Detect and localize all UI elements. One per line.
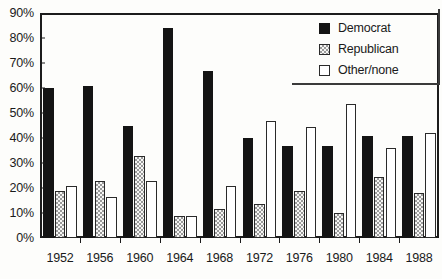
bar-rep-1952 xyxy=(55,191,66,239)
y-axis-tick-label: 30% xyxy=(10,156,34,170)
bar-group xyxy=(43,13,77,238)
x-axis-tick-label: 1972 xyxy=(246,251,273,265)
bar-rep-1984 xyxy=(374,177,385,238)
y-axis-tick-label: 70% xyxy=(10,56,34,70)
bar-oth-1976 xyxy=(306,127,317,238)
y-axis-tick-mark xyxy=(40,138,45,139)
bar-dem-1960 xyxy=(123,126,134,239)
legend-swatch-icon xyxy=(319,23,330,34)
bar-rep-1956 xyxy=(95,181,106,239)
y-axis-tick-mark xyxy=(40,188,45,189)
bar-dem-1968 xyxy=(203,71,214,239)
legend-item-rep[interactable]: Republican xyxy=(319,42,399,56)
y-axis-tick-label: 80% xyxy=(10,31,34,45)
y-axis-tick-label: 0% xyxy=(16,231,34,245)
bar-dem-1984 xyxy=(362,136,373,239)
bar-group xyxy=(243,13,277,238)
x-axis: 1952195619601964196819721976198019841988 xyxy=(40,243,439,273)
legend-item-dem[interactable]: Democrat xyxy=(319,21,391,35)
x-axis-tick-label: 1952 xyxy=(46,251,73,265)
legend-item-label: Democrat xyxy=(338,21,391,35)
x-axis-tick-label: 1968 xyxy=(206,251,233,265)
bar-oth-1972 xyxy=(266,121,277,239)
y-axis-tick-mark xyxy=(40,113,45,114)
x-axis-tick-mark xyxy=(200,238,201,243)
y-axis-tick-mark xyxy=(40,88,45,89)
y-axis-tick-mark xyxy=(40,63,45,64)
bar-group xyxy=(123,13,157,238)
bar-dem-1988 xyxy=(402,136,413,239)
bar-rep-1988 xyxy=(414,193,425,238)
x-axis-tick-mark xyxy=(240,238,241,243)
bar-rep-1972 xyxy=(254,204,265,238)
x-axis-tick-label: 1960 xyxy=(126,251,153,265)
y-axis-tick-label: 20% xyxy=(10,181,34,195)
x-axis-tick-mark xyxy=(319,238,320,243)
y-axis: 0%10%20%30%40%50%60%70%80%90% xyxy=(0,0,40,279)
bar-group xyxy=(83,13,117,238)
chart-legend: DemocratRepublicanOther/none xyxy=(292,9,440,85)
x-axis-tick-label: 1988 xyxy=(406,251,433,265)
legend-item-label: Other/none xyxy=(338,63,399,77)
bar-chart-figure: 0%10%20%30%40%50%60%70%80%90% 1952195619… xyxy=(0,0,442,279)
bar-oth-1980 xyxy=(346,104,357,238)
x-axis-tick-mark xyxy=(80,238,81,243)
bar-oth-1956 xyxy=(106,197,117,238)
y-axis-tick-label: 60% xyxy=(10,81,34,95)
x-axis-tick-mark xyxy=(359,238,360,243)
bar-dem-1964 xyxy=(163,28,174,238)
bar-rep-1960 xyxy=(134,156,145,239)
bar-dem-1956 xyxy=(83,86,94,239)
x-axis-tick-label: 1976 xyxy=(286,251,313,265)
x-axis-tick-mark xyxy=(279,238,280,243)
bar-rep-1968 xyxy=(214,209,225,238)
x-axis-tick-label: 1980 xyxy=(326,251,353,265)
bar-rep-1980 xyxy=(334,213,345,238)
bar-dem-1980 xyxy=(322,146,333,239)
y-axis-tick-label: 90% xyxy=(10,6,34,20)
bar-oth-1988 xyxy=(425,133,436,238)
bar-dem-1972 xyxy=(243,138,254,238)
y-axis-tick-mark xyxy=(40,213,45,214)
bar-group xyxy=(163,13,197,238)
bar-oth-1984 xyxy=(386,148,397,238)
legend-swatch-icon xyxy=(319,65,330,76)
x-axis-tick-mark xyxy=(120,238,121,243)
x-axis-tick-label: 1956 xyxy=(86,251,113,265)
bar-oth-1960 xyxy=(146,181,157,239)
x-axis-tick-mark xyxy=(399,238,400,243)
y-axis-tick-label: 50% xyxy=(10,106,34,120)
legend-item-oth[interactable]: Other/none xyxy=(319,63,399,77)
bar-oth-1968 xyxy=(226,186,237,239)
y-axis-tick-mark xyxy=(40,38,45,39)
bar-rep-1964 xyxy=(174,216,185,239)
bar-rep-1976 xyxy=(294,191,305,239)
x-axis-tick-label: 1984 xyxy=(366,251,393,265)
y-axis-tick-label: 40% xyxy=(10,131,34,145)
bar-group xyxy=(203,13,237,238)
bar-dem-1976 xyxy=(282,146,293,239)
legend-swatch-icon xyxy=(319,44,330,55)
x-axis-tick-label: 1964 xyxy=(166,251,193,265)
x-axis-tick-mark xyxy=(160,238,161,243)
legend-item-label: Republican xyxy=(338,42,399,56)
y-axis-tick-mark xyxy=(40,163,45,164)
y-axis-tick-label: 10% xyxy=(10,206,34,220)
bar-oth-1952 xyxy=(66,186,77,239)
bar-oth-1964 xyxy=(186,216,197,239)
